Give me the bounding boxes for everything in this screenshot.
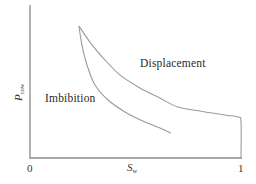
displacement-label: Displacement <box>140 57 206 69</box>
displacement-curve <box>79 26 241 158</box>
y-axis-title: Pcow <box>12 83 25 101</box>
imbibition-label: Imbibition <box>45 92 96 104</box>
x-tick-1: 1 <box>238 162 244 174</box>
x-axis-title: Sw <box>127 161 137 174</box>
y-axis-title-main: P <box>12 94 24 101</box>
imbibition-curve <box>79 26 171 133</box>
x-axis-title-sub: w <box>133 167 138 174</box>
x-tick-0: 0 <box>27 162 33 174</box>
capillary-pressure-chart <box>0 0 256 184</box>
y-axis-title-sub: cow <box>18 83 25 94</box>
